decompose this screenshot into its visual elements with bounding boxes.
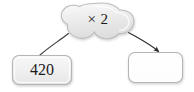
operation-node: × 2: [61, 3, 133, 39]
connector-input-to-operation: [40, 34, 69, 56]
output-node-shape[interactable]: [129, 53, 183, 83]
output-node[interactable]: [129, 53, 183, 83]
input-node: 420: [13, 56, 72, 85]
function-machine-diagram: × 2 420: [0, 0, 194, 92]
diagram-canvas: × 2 420: [0, 0, 194, 92]
connector-operation-to-output: [129, 33, 159, 52]
operation-label: × 2: [87, 11, 108, 27]
input-value: 420: [30, 61, 54, 78]
